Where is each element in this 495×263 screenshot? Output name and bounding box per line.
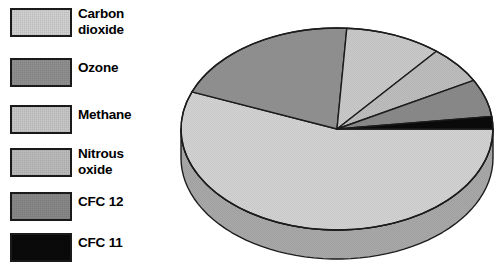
legend-swatch-fill [12,10,70,35]
swatch-ozone [10,58,72,87]
swatch-cfc-11 [10,233,72,262]
legend-swatch-fill [12,107,70,132]
legend-item-label: Nitrous oxide [78,146,124,177]
legend-swatch-fill [12,235,70,260]
legend-swatch-fill [12,194,70,219]
swatch-methane [10,105,72,134]
legend-swatch-fill [12,150,70,175]
swatch-nitrous-oxide [10,148,72,177]
legend-item-label: Carbon dioxide [78,6,124,37]
legend-item-label: Ozone [78,60,118,76]
legend-item-label: CFC 11 [78,235,123,251]
legend-swatch-fill [12,60,70,85]
legend-item-label: CFC 12 [78,194,123,210]
swatch-cfc-12 [10,192,72,221]
pie-dither-texture [181,28,493,230]
legend-item-label: Methane [78,107,131,123]
pie-chart-svg [168,18,495,263]
chart-legend: Carbon dioxideOzoneMethaneNitrous oxideC… [0,0,172,263]
chart-figure: Carbon dioxideOzoneMethaneNitrous oxideC… [0,0,495,263]
pie-chart [168,18,495,263]
swatch-carbon-dioxide [10,8,72,37]
